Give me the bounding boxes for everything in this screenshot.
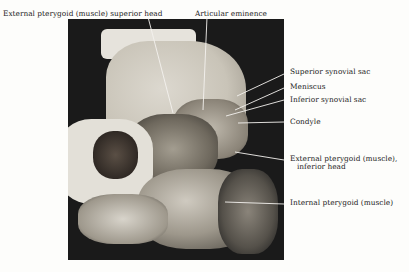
vessels-region xyxy=(218,169,278,254)
dark-cavity xyxy=(93,131,138,179)
label-internal-pterygoid: Internal pterygoid (muscle) xyxy=(290,199,393,207)
label-inferior-synovial-sac: Inferior synovial sac xyxy=(290,96,366,104)
label-superior-synovial-sac: Superior synovial sac xyxy=(290,68,370,76)
lower-left-bone xyxy=(78,194,168,244)
label-condyle: Condyle xyxy=(290,118,321,126)
label-meniscus: Meniscus xyxy=(290,83,326,91)
label-articular-eminence: Articular eminence xyxy=(195,10,267,18)
specimen-photo xyxy=(68,19,284,260)
label-ext-pterygoid-inferior-line2: inferior head xyxy=(297,163,346,171)
label-ext-pterygoid-superior: External pterygoid (muscle) superior hea… xyxy=(3,10,162,18)
